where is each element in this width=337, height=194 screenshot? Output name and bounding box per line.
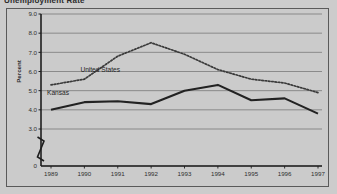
svg-text:Percent: Percent: [15, 60, 22, 83]
svg-text:0: 0: [34, 162, 38, 169]
svg-text:1991: 1991: [111, 170, 125, 177]
svg-text:1997: 1997: [311, 170, 325, 177]
x-tick-labels: 198919901991199219931994199519961997: [44, 166, 325, 177]
svg-text:6.0: 6.0: [28, 68, 37, 75]
svg-text:1989: 1989: [44, 170, 58, 177]
y-axis-title: Percent: [15, 60, 22, 83]
svg-text:1992: 1992: [144, 170, 158, 177]
svg-text:3.0: 3.0: [28, 125, 37, 132]
svg-text:1990: 1990: [77, 170, 91, 177]
svg-text:7.0: 7.0: [28, 49, 37, 56]
chart-canvas: 9.08.07.06.05.04.03.00 19891990199119921…: [0, 0, 337, 194]
svg-text:Kansas: Kansas: [47, 89, 70, 96]
chart-figure: Unemployment Rate 9.08.07.06.05.04.03.00…: [0, 0, 337, 194]
svg-text:United States: United States: [80, 66, 120, 73]
series-lines: [51, 43, 318, 114]
svg-text:4.0: 4.0: [28, 106, 37, 113]
svg-text:1996: 1996: [278, 170, 292, 177]
y-tick-labels: 9.08.07.06.05.04.03.00: [28, 10, 41, 169]
gridlines: [41, 14, 322, 166]
svg-text:8.0: 8.0: [28, 29, 37, 36]
svg-text:1993: 1993: [178, 170, 192, 177]
svg-text:1995: 1995: [244, 170, 258, 177]
series-annotations: United StatesKansas: [47, 66, 121, 96]
svg-text:9.0: 9.0: [28, 10, 37, 17]
svg-text:1994: 1994: [211, 170, 225, 177]
svg-text:5.0: 5.0: [28, 87, 37, 94]
